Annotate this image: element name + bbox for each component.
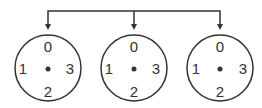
center-dot [132,67,137,72]
arrow-down-icon [131,24,137,30]
label-right: 3 [152,60,160,77]
arrow-down-icon [217,24,223,30]
label-top: 0 [44,38,52,55]
arrow-down-icon [45,24,51,30]
label-bottom: 2 [130,83,138,100]
label-right: 3 [239,60,247,77]
dial-3: 0 1 3 2 [187,35,253,101]
arrow-heads [45,24,223,30]
center-dot [46,67,51,72]
label-top: 0 [216,38,224,55]
label-bottom: 2 [44,83,52,100]
dial-2: 0 1 3 2 [101,35,167,101]
dial-diagram: 0 1 3 2 0 1 3 2 0 1 3 2 [0,0,262,108]
label-bottom: 2 [216,83,224,100]
label-top: 0 [130,38,138,55]
label-left: 1 [192,60,200,77]
center-dot [218,67,223,72]
label-left: 1 [19,60,27,77]
label-right: 3 [66,60,74,77]
label-left: 1 [105,60,113,77]
dial-1: 0 1 3 2 [15,35,81,101]
